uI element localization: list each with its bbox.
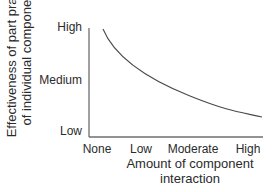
effectiveness-curve bbox=[103, 29, 262, 117]
y-tick-high: High bbox=[22, 20, 82, 34]
y-tick-low: Low bbox=[22, 124, 82, 138]
x-axis-label-line2: interaction bbox=[110, 171, 270, 186]
y-axis-label-line1: Effectiveness of part practice bbox=[4, 0, 19, 150]
x-axis-label: Amount of component interaction bbox=[110, 156, 270, 186]
x-tick-high: High bbox=[213, 142, 276, 156]
y-tick-medium: Medium bbox=[22, 73, 82, 87]
x-axis-label-line1: Amount of component bbox=[110, 156, 270, 171]
chart-figure: Effectiveness of part practice of indivi… bbox=[0, 0, 276, 192]
